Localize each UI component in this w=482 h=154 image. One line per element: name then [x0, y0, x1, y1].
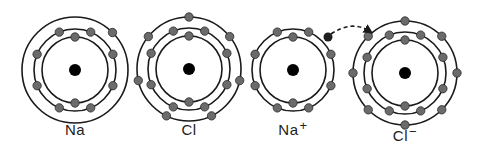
electron-dot	[327, 50, 335, 58]
electron-dot	[207, 112, 215, 120]
electron-dot	[439, 84, 447, 92]
electron-dot	[385, 107, 393, 115]
electron-dot	[169, 27, 177, 35]
electron-dot	[200, 103, 208, 111]
electron-dot	[416, 107, 424, 115]
electron-dot	[200, 27, 208, 35]
electron-dot	[162, 112, 170, 120]
nucleus	[287, 64, 299, 76]
atom-na	[22, 17, 128, 123]
electron-dot	[401, 36, 409, 44]
electron-dot	[363, 53, 371, 61]
electron-dot	[33, 50, 41, 58]
atom-cl	[134, 13, 244, 121]
element-symbol: Na	[278, 121, 298, 138]
transferred-electron	[324, 33, 333, 42]
electron-dot	[223, 49, 231, 57]
ion-charge: +	[300, 118, 308, 133]
electron-dot	[144, 32, 152, 40]
electron-dot	[55, 104, 63, 112]
electron-dot	[273, 104, 281, 112]
electron-dot	[185, 32, 193, 40]
electron-dot	[364, 32, 372, 40]
electron-dot	[109, 50, 117, 58]
electron-dot	[251, 81, 259, 89]
electron-dot	[223, 80, 231, 88]
electron-dot	[86, 28, 94, 36]
electron-dot	[289, 99, 297, 107]
electron-dot	[236, 76, 244, 84]
electron-dot	[185, 13, 193, 21]
electron-dot	[349, 69, 357, 77]
electron-dot	[438, 106, 446, 114]
nucleus	[69, 64, 81, 76]
electron-dot	[401, 17, 409, 25]
electron-dot	[33, 81, 41, 89]
electron-dot	[289, 33, 297, 41]
element-symbol: Cl	[393, 127, 408, 144]
electron-dot	[147, 80, 155, 88]
electron-dot	[304, 28, 312, 36]
electron-dot	[109, 81, 117, 89]
electron-dot	[416, 31, 424, 39]
electron-dot	[401, 102, 409, 110]
atom-label-cl: Cl	[181, 121, 196, 138]
atom-cl-ion	[349, 17, 461, 129]
electron-dot	[385, 31, 393, 39]
electron-dot	[225, 32, 233, 40]
ion-charge: −	[409, 124, 417, 139]
electron-dot	[134, 76, 142, 84]
electron-dot	[55, 28, 63, 36]
electron-dot	[364, 106, 372, 114]
electron-dot	[71, 33, 79, 41]
nucleus	[399, 67, 411, 79]
element-symbol: Cl	[181, 121, 196, 138]
electron-dot	[453, 69, 461, 77]
electron-dot	[251, 50, 259, 58]
electron-dot	[327, 81, 335, 89]
electron-dot	[86, 104, 94, 112]
electron-dot	[71, 99, 79, 107]
atom-label-cl-ion: Cl−	[393, 124, 417, 144]
electron-dot	[363, 84, 371, 92]
atom-na-ion	[251, 28, 335, 112]
electron-dot	[304, 104, 312, 112]
electron-dot	[169, 103, 177, 111]
element-symbol: Na	[65, 121, 85, 138]
atom-label-na-ion: Na+	[278, 118, 307, 138]
electron-dot	[439, 53, 447, 61]
electron-dot	[273, 28, 281, 36]
electron-dot	[108, 28, 116, 36]
electron-dot	[147, 49, 155, 57]
electron-dot	[185, 98, 193, 106]
electron-transfer-arrow	[331, 26, 369, 34]
atom-label-na: Na	[65, 121, 85, 138]
electron-dot	[438, 32, 446, 40]
nucleus	[183, 63, 195, 75]
